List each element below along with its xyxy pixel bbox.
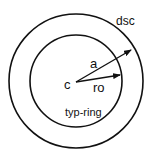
concentric-circles-diagram: dsc a c ro typ-ring (0, 0, 153, 154)
label-typ-ring: typ-ring (65, 106, 102, 118)
label-ro: ro (93, 80, 105, 95)
outer-circle-dsc (9, 14, 143, 148)
label-a: a (90, 56, 98, 71)
label-dsc: dsc (116, 14, 135, 28)
label-c: c (64, 77, 71, 92)
